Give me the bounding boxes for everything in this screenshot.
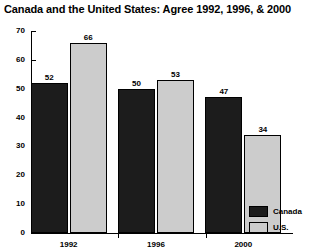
chart-legend: Canada U.S. bbox=[249, 204, 321, 236]
x-axis-label-1996: 1996 bbox=[136, 240, 176, 249]
legend-label-canada: Canada bbox=[273, 207, 302, 216]
bar-value-label: 53 bbox=[163, 70, 189, 79]
bar-chart-figure: Canada and the United States: Agree 1992… bbox=[0, 0, 325, 249]
bar-canada-1996 bbox=[118, 89, 155, 233]
bar-value-label: 47 bbox=[211, 87, 237, 96]
bar-value-label: 34 bbox=[250, 125, 276, 134]
x-axis-tick bbox=[118, 234, 119, 238]
legend-swatch-canada bbox=[249, 206, 268, 217]
legend-item-canada: Canada bbox=[249, 204, 321, 219]
y-axis-label: 10 bbox=[0, 200, 25, 208]
bar-us-1996 bbox=[157, 80, 194, 233]
bar-us-1992 bbox=[70, 43, 107, 233]
bar-value-label: 52 bbox=[36, 73, 62, 82]
y-axis-tick bbox=[31, 233, 36, 234]
y-axis-label: 50 bbox=[0, 85, 25, 93]
bar-canada-2000 bbox=[205, 97, 242, 233]
y-axis-label: 70 bbox=[0, 27, 25, 35]
y-axis-label: 40 bbox=[0, 114, 25, 122]
x-axis-tick bbox=[206, 234, 207, 238]
y-axis-label: 30 bbox=[0, 142, 25, 150]
bar-value-label: 50 bbox=[124, 79, 150, 88]
legend-swatch-us bbox=[249, 222, 268, 233]
bar-canada-1992 bbox=[31, 83, 68, 233]
chart-title: Canada and the United States: Agree 1992… bbox=[4, 3, 322, 16]
plot-area: 526650534734 bbox=[31, 31, 293, 233]
x-axis-label-1992: 1992 bbox=[49, 240, 89, 249]
bar-value-label: 66 bbox=[75, 33, 101, 42]
legend-label-us: U.S. bbox=[273, 223, 289, 232]
y-axis-label: 60 bbox=[0, 56, 25, 64]
y-axis-label: 20 bbox=[0, 171, 25, 179]
y-axis-label: 0 bbox=[0, 229, 25, 237]
x-axis-label-2000: 2000 bbox=[223, 240, 263, 249]
legend-item-us: U.S. bbox=[249, 220, 321, 235]
